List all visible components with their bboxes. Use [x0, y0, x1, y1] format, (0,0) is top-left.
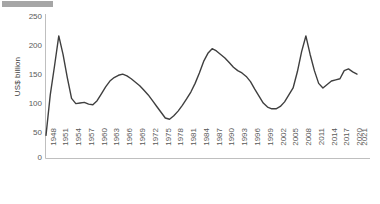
x-tick-label: 1948 [50, 128, 58, 162]
line-chart: US$ billion 250 200 150 100 50 0 1948195… [0, 0, 380, 204]
x-tick-label: 1960 [101, 128, 109, 162]
x-tick-label: 1984 [203, 128, 211, 162]
x-tick-label: 2021 [361, 128, 369, 162]
x-tick-label: 1972 [152, 128, 160, 162]
x-tick-label: 1990 [228, 128, 236, 162]
x-tick-label: 1963 [113, 128, 121, 162]
x-tick-label: 2005 [292, 128, 300, 162]
x-tick-label: 1966 [126, 128, 134, 162]
x-tick-label: 1951 [62, 128, 70, 162]
x-tick-label: 2011 [318, 128, 326, 162]
x-tick-label: 2014 [331, 128, 339, 162]
x-tick-label: 1999 [267, 128, 275, 162]
x-tick-label: 1954 [75, 128, 83, 162]
x-tick-label: 2002 [280, 128, 288, 162]
x-tick-label: 2008 [305, 128, 313, 162]
x-tick-label: 1969 [139, 128, 147, 162]
x-tick-label: 1996 [254, 128, 262, 162]
x-axis-tick-labels: 1948195119541957196019631966196919721975… [0, 0, 380, 204]
x-tick-label: 1993 [241, 128, 249, 162]
x-tick-label: 1957 [88, 128, 96, 162]
x-tick-label: 1975 [165, 128, 173, 162]
x-tick-label: 1987 [216, 128, 224, 162]
chart-screenshot: US$ billion 250 200 150 100 50 0 1948195… [0, 0, 380, 204]
x-tick-label: 1981 [190, 128, 198, 162]
x-tick-label: 1978 [177, 128, 185, 162]
x-tick-label: 2017 [343, 128, 351, 162]
